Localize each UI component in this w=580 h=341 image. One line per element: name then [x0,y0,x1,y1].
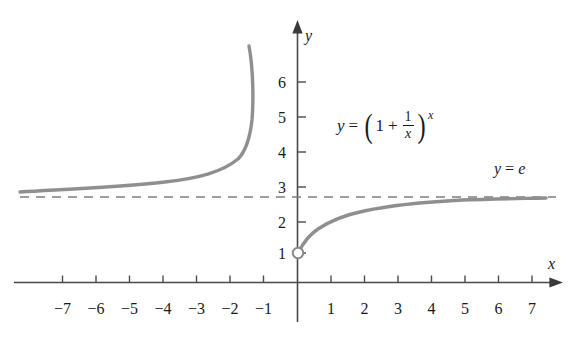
equation-annotation: y = ( 1 + 1 x ) x [337,110,433,141]
equation-fraction: 1 x [403,110,414,141]
x-tick-label: 7 [519,300,545,318]
asymptote-label-equals: = [505,160,514,177]
y-axis-label: y [305,27,312,45]
x-axis-label: x [548,255,555,273]
curve-right-branch [298,198,546,253]
x-tick-label: −1 [251,300,277,318]
asymptote-label-y: y [494,160,501,177]
plot-canvas [0,0,580,341]
x-tick-label: 2 [352,300,378,318]
equation-exponent: x [428,108,433,123]
math-figure: y x −7 −6 −5 −4 −3 −2 −1 1 2 3 4 5 6 7 1… [0,0,580,341]
x-tick-label: 5 [452,300,478,318]
asymptote-annotation: y = e [494,160,525,178]
y-tick-label: 6 [266,74,286,92]
equation-plus: + [388,116,398,136]
x-tick-label: 4 [419,300,445,318]
fraction-numerator: 1 [403,110,414,124]
fraction-denominator: x [403,127,413,141]
open-circle-hole [293,248,303,258]
y-tick-label: 3 [266,179,286,197]
y-tick-label: 1 [266,245,286,263]
y-axis-ticks [298,82,307,253]
x-tick-label: −4 [150,300,176,318]
x-tick-label: −3 [184,300,210,318]
equation-equals: = [349,116,359,136]
x-tick-label: −5 [117,300,143,318]
y-tick-label: 5 [266,109,286,127]
paren-open: ( [365,112,373,139]
x-tick-label: −6 [83,300,109,318]
x-tick-label: −2 [217,300,243,318]
equation-inner: 1 + 1 x [375,110,414,141]
y-tick-label: 2 [266,214,286,232]
x-tick-label: 3 [385,300,411,318]
asymptote-label-e: e [518,160,525,177]
paren-close: ) [417,112,425,139]
curve-left-branch [20,46,253,192]
x-tick-label: 6 [486,300,512,318]
y-tick-label: 4 [266,144,286,162]
equation-one: 1 [375,116,384,136]
equation-lhs: y [337,116,345,136]
x-tick-label: −7 [50,300,76,318]
x-tick-label: 1 [318,300,344,318]
